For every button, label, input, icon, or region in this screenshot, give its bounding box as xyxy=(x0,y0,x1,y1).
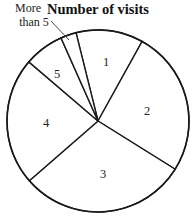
slice-label-2: 2 xyxy=(144,104,150,118)
annotation-more-line1: More xyxy=(15,1,41,15)
pie-slices xyxy=(7,30,189,212)
slice-label-4: 4 xyxy=(43,116,50,130)
annotation-more-line2: than 5 xyxy=(19,15,49,29)
annotation-leader-line xyxy=(51,21,69,40)
slice-label-5: 5 xyxy=(54,67,60,81)
chart-title: Number of visits xyxy=(47,1,149,17)
slice-label-3: 3 xyxy=(100,167,106,181)
slice-label-1: 1 xyxy=(103,55,109,69)
pie-chart: Number of visits 12345 More than 5 xyxy=(0,0,192,216)
